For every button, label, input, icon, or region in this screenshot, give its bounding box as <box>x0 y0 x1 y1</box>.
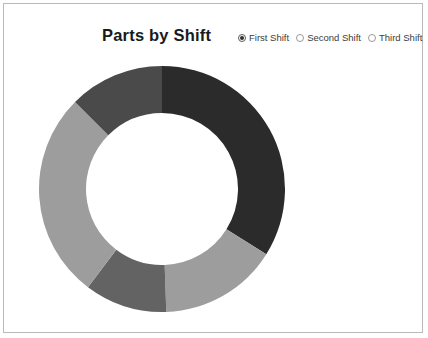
donut-slice[interactable] <box>162 66 285 254</box>
donut-chart-svg <box>34 63 290 315</box>
donut-slice-group <box>39 66 285 312</box>
chart-card: Parts by Shift First ShiftSecond ShiftTh… <box>3 3 423 333</box>
donut-chart <box>4 4 424 334</box>
